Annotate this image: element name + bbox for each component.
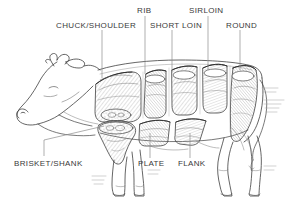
- flank-cut: [175, 119, 206, 145]
- sirloin-cut: [203, 64, 227, 113]
- label-sirloin: SIRLOIN: [189, 6, 223, 15]
- label-brisket-shank: BRISKET/SHANK: [14, 159, 83, 168]
- label-round: ROUND: [226, 21, 257, 30]
- cut-sections-group: [95, 64, 257, 164]
- chuck-shoulder-cut: [95, 72, 141, 122]
- beef-cuts-diagram: [0, 0, 297, 202]
- leader-brisket-shank: [44, 126, 104, 156]
- hindleg-back: [248, 136, 261, 196]
- horns-icon: [50, 53, 69, 66]
- diagram-artwork: [17, 53, 284, 196]
- ear-icon: [66, 59, 85, 68]
- hindleg-front: [218, 138, 233, 196]
- label-chuck-shoulder: CHUCK/SHOULDER: [56, 21, 136, 30]
- neck-line: [84, 65, 100, 70]
- muzzle: [17, 109, 28, 118]
- cow-head-group: [17, 53, 100, 135]
- rib-cut: [144, 70, 166, 118]
- label-plate: PLATE: [138, 159, 165, 168]
- label-rib: RIB: [137, 6, 151, 15]
- round-cut: [230, 66, 257, 142]
- short-loin-cut: [172, 66, 197, 115]
- plate-cut: [139, 120, 170, 146]
- label-short-loin: SHORT LOIN: [150, 21, 202, 30]
- head-outline: [17, 62, 93, 125]
- foreleg-back: [132, 150, 144, 196]
- label-flank: FLANK: [178, 159, 206, 168]
- brisket-shank-cut: [98, 121, 136, 165]
